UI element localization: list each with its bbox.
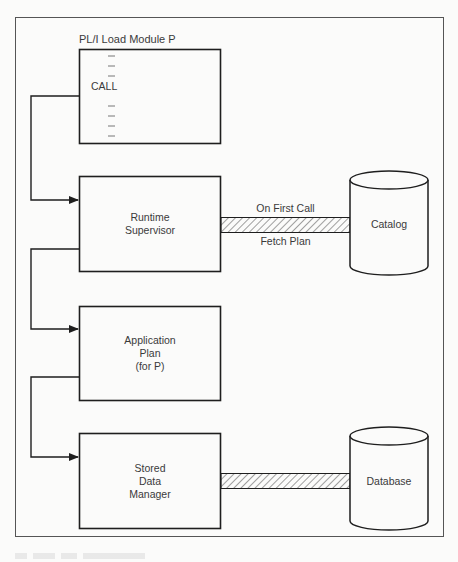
catalog-link-band xyxy=(221,218,350,233)
on-first-call-label: On First Call xyxy=(221,202,350,215)
application-plan-line3: (for P) xyxy=(79,360,221,373)
connector-plan-to-data-manager xyxy=(31,377,79,457)
stored-data-manager-line2: Data xyxy=(79,475,221,488)
runtime-supervisor-line1: Runtime xyxy=(79,211,221,224)
runtime-supervisor-line2: Supervisor xyxy=(79,224,221,237)
call-label: CALL xyxy=(91,80,117,93)
connector-supervisor-to-plan xyxy=(31,249,79,329)
catalog-label: Catalog xyxy=(350,218,428,231)
load-module-title: PL/I Load Module P xyxy=(79,33,176,46)
connector-call-to-supervisor xyxy=(31,96,79,200)
stored-data-manager-line1: Stored xyxy=(79,462,221,475)
application-plan-line1: Application xyxy=(79,334,221,347)
fetch-plan-label: Fetch Plan xyxy=(221,235,350,248)
figure-caption-cropped xyxy=(15,553,145,559)
runtime-supervisor-label: Runtime Supervisor xyxy=(79,211,221,237)
database-link-band xyxy=(221,474,350,489)
stored-data-manager-label: Stored Data Manager xyxy=(79,462,221,501)
application-plan-line2: Plan xyxy=(79,347,221,360)
code-line-marks xyxy=(108,56,115,136)
stored-data-manager-line3: Manager xyxy=(79,488,221,501)
load-module-box xyxy=(80,50,221,144)
database-label: Database xyxy=(350,475,428,488)
application-plan-label: Application Plan (for P) xyxy=(79,334,221,373)
